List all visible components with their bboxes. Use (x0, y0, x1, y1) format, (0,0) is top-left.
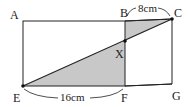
segment-fg (125, 84, 172, 86)
measure-bc-label: 8cm (138, 2, 157, 14)
point-x (123, 39, 127, 43)
measure-ef-label: 16cm (60, 91, 85, 103)
label-x: X (115, 47, 124, 61)
label-a: A (10, 8, 19, 22)
label-e: E (13, 91, 20, 105)
label-c: C (174, 6, 182, 20)
label-g: G (172, 89, 181, 103)
label-f: F (121, 91, 128, 105)
geometry-diagram: A B C X E F G 8cm 16cm (0, 0, 189, 107)
label-b: B (120, 6, 128, 20)
point-e (21, 84, 25, 88)
